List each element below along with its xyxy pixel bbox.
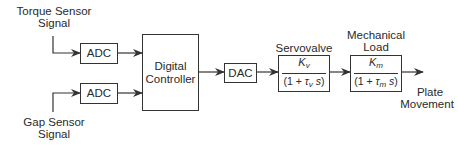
- servovalve-numerator: Kv: [298, 56, 309, 73]
- servovalve-denominator: (1 + τv s): [284, 74, 325, 91]
- servovalve-title: Servovalve: [272, 42, 336, 54]
- dac-label: DAC: [228, 67, 252, 80]
- gap-sensor-label-line2: Signal: [14, 128, 94, 140]
- load-title-line2: Load: [344, 41, 408, 53]
- servovalve-block: Kv (1 + τv s): [278, 55, 330, 92]
- plate-movement-label: Plate Movement: [392, 86, 458, 110]
- torque-sensor-label-line1: Torque Sensor: [14, 5, 94, 17]
- servovalve-transfer-function: Kv (1 + τv s): [282, 56, 326, 91]
- torque-sensor-label-line2: Signal: [14, 17, 94, 29]
- torque-sensor-label: Torque Sensor Signal: [14, 5, 94, 29]
- digital-controller-block: Digital Controller: [142, 34, 199, 111]
- gap-signal-line: [53, 93, 80, 112]
- output-label-line1: Plate: [392, 86, 458, 98]
- adc-top-label: ADC: [87, 47, 111, 60]
- output-label-line2: Movement: [392, 98, 458, 110]
- load-numerator: Km: [369, 56, 383, 73]
- adc-bottom-block: ADC: [80, 83, 118, 104]
- controller-label-line1: Digital: [155, 60, 187, 73]
- gap-sensor-label: Gap Sensor Signal: [14, 116, 94, 140]
- gap-sensor-label-line1: Gap Sensor: [14, 116, 94, 128]
- load-title-line1: Mechanical: [344, 29, 408, 41]
- dac-block: DAC: [224, 63, 257, 83]
- adc-top-block: ADC: [80, 43, 118, 64]
- mechanical-load-title: Mechanical Load: [344, 29, 408, 53]
- adc-bottom-label: ADC: [87, 87, 111, 100]
- controller-label-line2: Controller: [146, 73, 196, 86]
- torque-signal-line: [53, 36, 80, 53]
